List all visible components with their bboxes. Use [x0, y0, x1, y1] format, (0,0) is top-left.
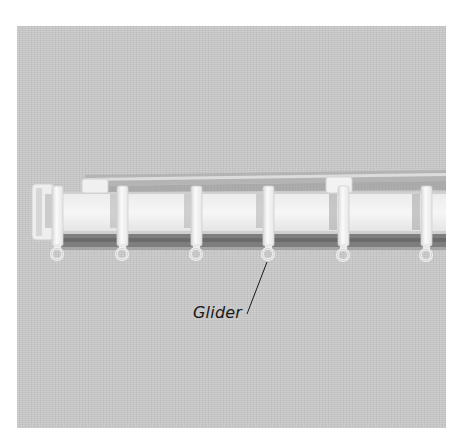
callout-leader-line [247, 262, 267, 314]
glider-1 [45, 186, 63, 260]
callout-label-glider: Glider [193, 303, 242, 322]
curtain-track-illustration [17, 26, 446, 428]
product-photo [17, 26, 446, 428]
